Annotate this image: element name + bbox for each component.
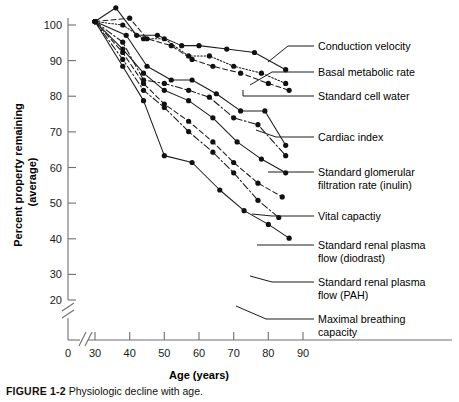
label-srpf-pah-line1: Standard renal plasma [318, 276, 426, 288]
figure-caption: FIGURE 1-2 Physiologic decline with age. [6, 385, 203, 397]
y-tick-label-60: 60 [50, 162, 62, 174]
y-tick-marks [68, 25, 76, 300]
data-point [207, 95, 212, 100]
y-tick-label-80: 80 [50, 90, 62, 102]
x-tick-label-90: 90 [297, 347, 309, 359]
y-tick-label-90: 90 [50, 55, 62, 67]
data-point [120, 64, 125, 69]
data-point [179, 43, 184, 48]
data-point [141, 81, 146, 86]
data-point [283, 143, 288, 148]
data-point [141, 71, 146, 76]
data-point [144, 64, 149, 69]
y-tick-label-100: 100 [44, 19, 62, 31]
y-tick-label-40: 40 [50, 233, 62, 245]
data-point [255, 198, 260, 203]
data-point [283, 81, 288, 86]
data-point [162, 36, 167, 41]
data-point [210, 139, 215, 144]
data-point [144, 36, 149, 41]
x-tick-label-0: 0 [65, 347, 71, 359]
data-point [141, 88, 146, 93]
data-point [262, 108, 267, 113]
series-standard-glomerular-filtration-rate-inulin [92, 19, 288, 158]
series-labels: Conduction velocity Basal metabolic rate… [318, 40, 426, 338]
data-point [120, 40, 125, 45]
data-point [189, 77, 194, 82]
data-point [127, 16, 132, 21]
leader-lines [236, 46, 314, 319]
leader-srpf-pah [250, 276, 314, 282]
leader-vital-capacity [252, 214, 314, 216]
data-point [210, 115, 215, 120]
label-vital-capacity: Vital capactiy [318, 210, 381, 222]
leader-maximal-breathing [236, 306, 314, 319]
data-point [162, 153, 167, 158]
data-point [231, 64, 236, 69]
data-point [120, 22, 125, 27]
data-point [259, 156, 264, 161]
label-srpf-diodrast-line2: flow (diodrast) [318, 252, 385, 264]
label-srpf-pah-line2: flow (PAH) [318, 289, 368, 301]
leader-cardiac-index [256, 130, 314, 137]
x-tick-label-70: 70 [228, 347, 240, 359]
data-point [169, 43, 174, 48]
label-conduction-velocity: Conduction velocity [318, 40, 411, 52]
x-tick-label-50: 50 [158, 347, 170, 359]
data-point [186, 88, 191, 93]
data-point [162, 105, 167, 110]
data-point [210, 150, 215, 155]
data-point [280, 194, 285, 199]
data-point [120, 57, 125, 62]
data-point [214, 91, 219, 96]
axis-y [62, 18, 74, 340]
y-tick-label-70: 70 [50, 126, 62, 138]
x-tick-label-60: 60 [193, 347, 205, 359]
data-point [186, 98, 191, 103]
data-point [210, 64, 215, 69]
data-point [207, 53, 212, 58]
label-maximal-breathing-line2: capacity [318, 326, 358, 338]
data-point [235, 139, 240, 144]
data-point [231, 160, 236, 165]
data-point [189, 57, 194, 62]
data-point [287, 236, 292, 241]
label-sgfr-line2: filtration rate (inulin) [318, 179, 412, 191]
data-point [238, 108, 243, 113]
data-point [255, 181, 260, 186]
series-cardiac-index [92, 19, 288, 148]
chart-canvas: 100 90 80 70 60 50 40 30 20 0 30 40 50 6… [0, 0, 459, 402]
data-point [266, 222, 271, 227]
data-point [231, 170, 236, 175]
data-point [162, 88, 167, 93]
label-basal-metabolic-rate: Basal metabolic rate [318, 66, 415, 78]
data-point [231, 115, 236, 120]
figure-caption-text: Physiologic decline with age. [69, 385, 203, 397]
data-point [189, 160, 194, 165]
y-axis-title-line1: Percent property remaining [12, 103, 24, 247]
figure-root: 100 90 80 70 60 50 40 30 20 0 30 40 50 6… [0, 0, 459, 402]
data-point [255, 122, 260, 127]
x-tick-label-30: 30 [89, 347, 101, 359]
data-point [241, 208, 246, 213]
y-tick-label-50: 50 [50, 197, 62, 209]
data-point [283, 153, 288, 158]
series-conduction-velocity [92, 5, 288, 72]
data-point [224, 46, 229, 51]
label-standard-cell-water: Standard cell water [318, 90, 410, 102]
y-axis-title-line2: (average) [26, 157, 38, 206]
data-point [186, 129, 191, 134]
data-point [266, 81, 271, 86]
x-tick-marks [95, 332, 303, 340]
data-point [252, 50, 257, 55]
data-point [155, 33, 160, 38]
axis-x [68, 332, 452, 346]
leader-standard-cell-water [243, 90, 314, 96]
figure-caption-label: FIGURE 1-2 [6, 385, 66, 397]
data-point [287, 88, 292, 93]
data-point [141, 98, 146, 103]
y-tick-label-30: 30 [50, 268, 62, 280]
data-point [92, 19, 97, 24]
x-tick-label-40: 40 [124, 347, 136, 359]
data-point [169, 77, 174, 82]
